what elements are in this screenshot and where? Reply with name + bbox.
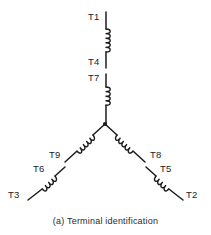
wire-center-left bbox=[93, 124, 105, 135]
coil-t1-t4 bbox=[106, 29, 110, 52]
figure-container: T1 T4 T7 T9 T8 T6 T5 T3 T2 (a) Terminal … bbox=[0, 0, 211, 235]
terminal-label-t7: T7 bbox=[88, 72, 100, 83]
terminal-label-t2: T2 bbox=[186, 189, 198, 200]
winding-center-t9 bbox=[65, 124, 105, 162]
winding-center-t8 bbox=[105, 124, 145, 162]
terminal-label-t5: T5 bbox=[160, 163, 172, 174]
figure-caption: (a) Terminal identification bbox=[0, 216, 211, 226]
terminal-label-t9: T9 bbox=[49, 149, 61, 160]
wire-t9-end bbox=[65, 152, 77, 163]
terminal-label-t4: T4 bbox=[88, 56, 100, 67]
wye-winding-diagram: T1 T4 T7 T9 T8 T6 T5 T3 T2 bbox=[0, 0, 211, 235]
coil-t5-t2 bbox=[155, 176, 169, 191]
wire-t3-end bbox=[28, 190, 42, 201]
coil-center-t9 bbox=[77, 135, 94, 153]
wire-t8-end bbox=[134, 152, 146, 163]
wire-t2-end bbox=[170, 190, 184, 201]
terminal-label-t6: T6 bbox=[33, 163, 45, 174]
wire-center-right bbox=[105, 124, 117, 135]
coil-t6-t3 bbox=[42, 176, 56, 191]
coil-t7-center bbox=[106, 87, 110, 105]
terminal-label-t1: T1 bbox=[88, 11, 100, 22]
terminal-label-t8: T8 bbox=[150, 149, 162, 160]
terminal-label-t3: T3 bbox=[8, 189, 20, 200]
wire-t5-top bbox=[146, 167, 156, 176]
winding-t7-center bbox=[106, 74, 110, 124]
wire-t6-top bbox=[55, 167, 65, 176]
wye-center-node bbox=[103, 122, 107, 126]
winding-t1-t4 bbox=[106, 12, 110, 68]
coil-center-t8 bbox=[116, 135, 133, 153]
